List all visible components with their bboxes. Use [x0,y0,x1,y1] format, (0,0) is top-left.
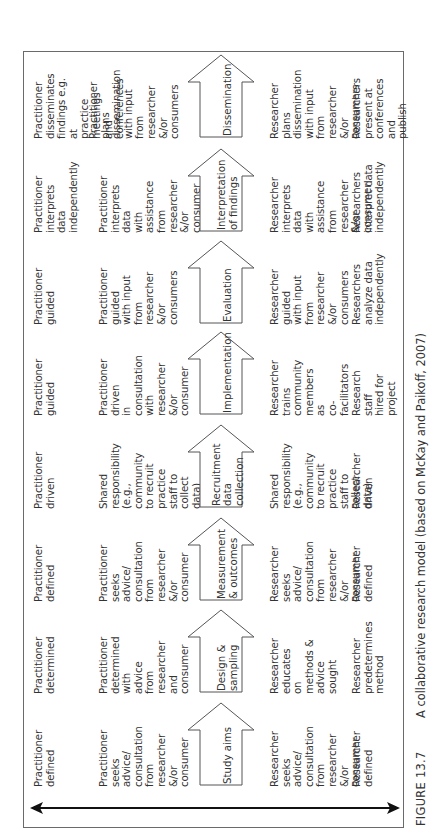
practitioner-detail-cell: Practitioner determined with advice from… [98,637,191,694]
diagram-frame: Practitioner defined Practitioner seeks … [23,51,404,828]
practitioner-short-cell: Practitioner guided [33,359,56,416]
stage-arrow-study-aims: Study aims [186,701,256,787]
practitioner-detail-cell: Practitioner guided with input from rese… [98,268,179,325]
stage-label: Measurement & outcomes [207,539,249,599]
practitioner-short-cell: Practitioner guided [33,268,56,325]
figure-caption-text: A collaborative research model (based on… [414,333,428,718]
practitioner-short-cell: Practitioner interprets data independent… [33,162,79,233]
figure-number: FIGURE 13.7 [414,718,428,826]
researcher-detail-cell: Researcher seeks advice/ consultation fr… [269,541,362,602]
researcher-short-cell: Researchers analyze data independently [351,254,386,325]
stage-arrow-implementation: Implementation [186,330,256,416]
practitioner-detail-cell: Practitioner plans dissemination with in… [88,70,181,139]
stage-label: Design & sampling [207,631,249,691]
researcher-short-cell: Researcher defined [351,546,374,602]
practitioner-detail-cell: Practitioner seeks advice/ consultation … [98,541,191,602]
stage-arrow-design-sampling: Design & sampling [186,608,256,694]
stage-label: Implementation [207,353,249,413]
practitioner-short-cell: Practitioner defined [33,730,56,787]
stage-arrow-dissemination: Dissemination [186,53,256,139]
practitioner-detail-cell: Practitioner seeks advice/ consultation … [98,726,191,787]
double-headed-arrow-icon [30,801,400,815]
stage-label: Study aims [207,724,249,784]
researcher-detail-cell: Researcher trains community members as c… [269,360,350,416]
researcher-short-cell: Researcher driven [351,453,374,509]
practitioner-short-cell: Practitioner defined [33,545,56,602]
stage-label: Evaluation [207,262,249,322]
stage-arrow-evaluation: Evaluation [186,239,256,325]
practitioner-short-cell: Practitioner driven [33,452,56,509]
researcher-short-cell: Researchers present at conferences and p… [351,78,409,139]
stage-label: Dissemination [207,76,249,136]
stage-arrow-interpretation-of-findings: Interpretation of findings [186,147,256,233]
researcher-short-cell: Research staff hired for project [351,370,397,416]
rotated-figure-page: Practitioner defined Practitioner seeks … [0,0,440,829]
researcher-detail-cell: Researcher seeks advice/ consultation fr… [269,726,362,787]
researcher-detail-cell: Researcher plans dissemination with inpu… [269,70,362,139]
stage-arrow-measurement-outcomes: Measurement & outcomes [186,516,256,602]
researcher-detail-cell: Researcher guided with input from resear… [269,269,350,325]
stage-label: Interpretation of findings [207,170,249,230]
researcher-short-cell: Researcher predetermines method [351,621,386,694]
researcher-short-cell: Researchers interpret data independently [351,162,386,233]
figure-caption: FIGURE 13.7A collaborative research mode… [414,26,428,826]
researcher-short-cell: Researcher defined [351,731,374,787]
stage-label: Recruitment data collection [207,446,249,506]
researcher-detail-cell: Researcher educates on methods & advice … [269,638,339,694]
practitioner-short-cell: Practitioner determined [33,637,56,694]
practitioner-detail-cell: Practitioner driven in consultation with… [98,355,191,416]
stage-arrow-recruitment-data-collection: Recruitment data collection [186,423,256,509]
